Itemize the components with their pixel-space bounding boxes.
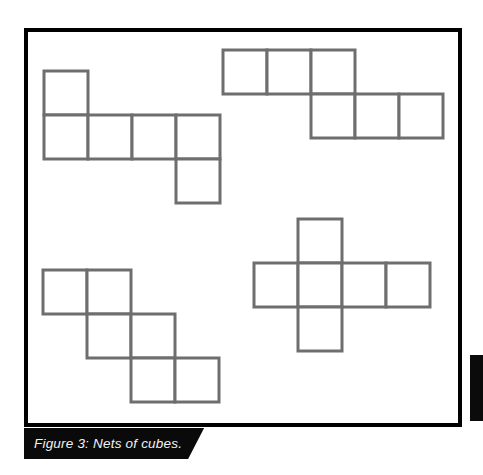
- figure-caption-banner: Figure 3: Nets of cubes.: [24, 428, 204, 459]
- page-edge-marker: [470, 355, 483, 421]
- figure-page: { "figure": { "caption": "Figure 3: Nets…: [0, 0, 483, 475]
- figure-border-frame: [24, 28, 462, 427]
- figure-caption-text: Figure 3: Nets of cubes.: [34, 436, 182, 451]
